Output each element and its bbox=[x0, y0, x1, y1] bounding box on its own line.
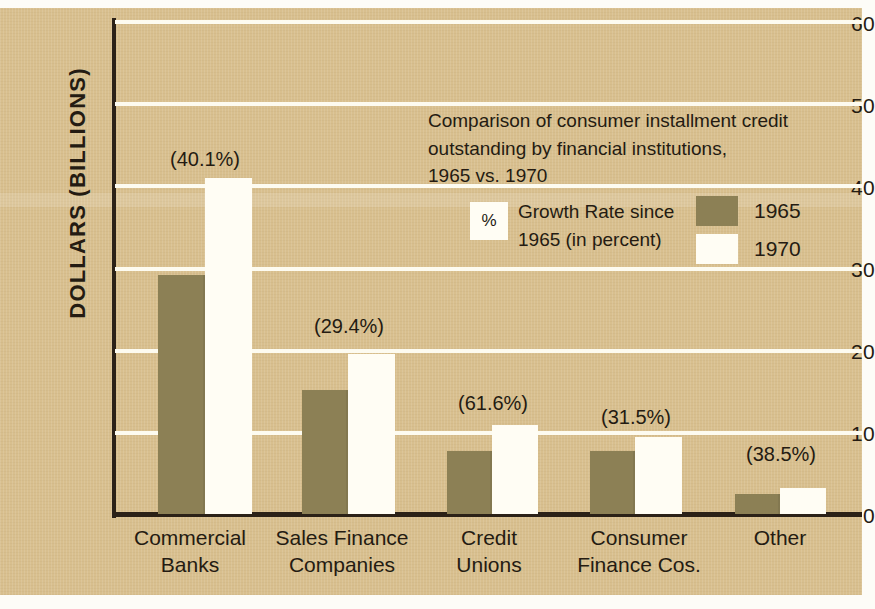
legend-label-1965: 1965 bbox=[754, 199, 801, 223]
x-label-line-2: Companies bbox=[263, 552, 421, 579]
x-label-sales-finance-companies: Sales Finance Companies bbox=[263, 525, 421, 579]
gridline-60 bbox=[115, 20, 862, 24]
chart-title: Comparison of consumer installment credi… bbox=[428, 107, 848, 190]
x-label-line-2: Unions bbox=[425, 552, 553, 579]
x-label-line-2: Finance Cos. bbox=[558, 552, 720, 579]
bar-1970-credit-unions bbox=[492, 425, 538, 514]
percent-swatch: % bbox=[470, 202, 508, 240]
bar-1970-sales-finance-companies bbox=[348, 354, 395, 514]
legend-swatch-1965 bbox=[696, 196, 738, 226]
growth-label-commercial-banks: (40.1%) bbox=[143, 148, 267, 171]
legend-swatch-1970 bbox=[696, 234, 738, 264]
x-label-line-1: Sales Finance bbox=[263, 525, 421, 552]
growth-label-sales-finance-companies: (29.4%) bbox=[287, 315, 411, 338]
chart-legend: % Growth Rate since 1965 (in percent) 19… bbox=[470, 196, 850, 264]
bar-1965-credit-unions bbox=[447, 451, 492, 514]
x-label-line-1: Other bbox=[720, 525, 840, 552]
bar-1970-other bbox=[780, 488, 826, 514]
legend-entry-1970: 1970 bbox=[696, 234, 801, 264]
chart-figure: DOLLARS (BILLIONS) 60 50 40 30 20 10 0 (… bbox=[0, 0, 875, 609]
legend-entry-1965: 1965 bbox=[696, 196, 801, 226]
chart-title-line-3: 1965 vs. 1970 bbox=[428, 162, 848, 190]
bar-1965-consumer-finance-cos bbox=[590, 451, 635, 514]
growth-label-other: (38.5%) bbox=[719, 443, 843, 466]
growth-label-consumer-finance-cos: (31.5%) bbox=[574, 406, 698, 429]
x-label-credit-unions: Credit Unions bbox=[425, 525, 553, 579]
x-label-line-2: Banks bbox=[120, 552, 260, 579]
percent-caption: Growth Rate since 1965 (in percent) bbox=[518, 198, 674, 253]
x-label-line-1: Commercial bbox=[120, 525, 260, 552]
x-label-commercial-banks: Commercial Banks bbox=[120, 525, 260, 579]
legend-label-1970: 1970 bbox=[754, 237, 801, 261]
bar-1965-other bbox=[735, 494, 780, 514]
bar-1965-commercial-banks bbox=[158, 275, 205, 514]
bar-1970-consumer-finance-cos bbox=[635, 437, 682, 514]
gridline-50 bbox=[115, 102, 862, 106]
y-axis-title: DOLLARS (BILLIONS) bbox=[65, 63, 91, 323]
growth-label-credit-unions: (61.6%) bbox=[431, 392, 555, 415]
chart-title-line-1: Comparison of consumer installment credi… bbox=[428, 107, 848, 135]
x-label-line-1: Consumer bbox=[558, 525, 720, 552]
x-label-other: Other bbox=[720, 525, 840, 552]
x-label-line-1: Credit bbox=[425, 525, 553, 552]
bar-1970-commercial-banks bbox=[205, 178, 252, 514]
x-label-consumer-finance-cos: Consumer Finance Cos. bbox=[558, 525, 720, 579]
bar-1965-sales-finance-companies bbox=[302, 390, 348, 514]
chart-title-line-2: outstanding by financial institutions, bbox=[428, 135, 848, 163]
percent-symbol: % bbox=[481, 211, 496, 231]
